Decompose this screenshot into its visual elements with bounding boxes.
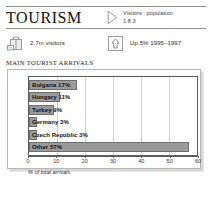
x-tick-label: 0 — [26, 158, 29, 164]
bar-row[interactable]: Germany 3% — [29, 117, 197, 127]
page-title: TOURISM — [6, 10, 82, 26]
chart-title: MAIN TOURIST ARRIVALS — [6, 59, 206, 66]
tourism-infographic-panel: TOURISM Visitors : population 1:8.3 2.7m… — [0, 6, 212, 206]
header-row: TOURISM Visitors : population 1:8.3 — [6, 7, 206, 28]
x-tick-label: 10 — [53, 158, 59, 164]
up-arrow-box-icon — [106, 34, 125, 53]
bar-row[interactable]: Czech Republic 3% — [29, 130, 197, 140]
play-triangle-icon — [107, 10, 118, 25]
plot-area: Bulgaria 17%Hungary 11%Turkey 9%Germany … — [28, 76, 198, 156]
stats-row: 2.7m visitors Up 5% 1995–1997 — [6, 30, 206, 56]
bar-label: Bulgaria 17% — [32, 82, 70, 88]
x-axis-ticks: 0102030405060 — [28, 156, 198, 168]
bar-label: Other 57% — [32, 144, 62, 150]
chart-panel: Bulgaria 17%Hungary 11%Turkey 9%Germany … — [7, 69, 205, 177]
growth-label: Up 5% 1995–1997 — [130, 40, 181, 46]
bar-label: Czech Republic 3% — [32, 132, 88, 138]
chart-card: Bulgaria 17%Hungary 11%Turkey 9%Germany … — [7, 69, 201, 169]
x-tick-label: 30 — [110, 158, 116, 164]
visitors-count-stat: 2.7m visitors — [6, 34, 106, 53]
x-tick-label: 40 — [138, 158, 144, 164]
x-tick-label: 60 — [195, 158, 201, 164]
ratio-label: Visitors : population — [123, 10, 173, 16]
bar-row[interactable]: Bulgaria 17% — [29, 80, 197, 90]
x-tick-label: 50 — [167, 158, 173, 164]
x-tick-label: 20 — [82, 158, 88, 164]
title-cell: TOURISM — [6, 7, 106, 28]
bar-series: Bulgaria 17%Hungary 11%Turkey 9%Germany … — [29, 77, 197, 155]
x-axis-label: % of total arrivals — [28, 169, 70, 175]
suitcase-icon — [6, 34, 25, 53]
bar-label: Hungary 11% — [32, 94, 70, 100]
ratio-value: 1:8.3 — [123, 18, 173, 26]
header-divider-rule — [6, 28, 206, 29]
bar-label: Turkey 9% — [32, 107, 62, 113]
growth-stat: Up 5% 1995–1997 — [106, 34, 206, 53]
bar-label: Germany 3% — [32, 119, 69, 125]
bar-row[interactable]: Other 57% — [29, 142, 197, 152]
visitors-count-label: 2.7m visitors — [30, 40, 65, 46]
visitors-population-stat: Visitors : population 1:8.3 — [106, 7, 206, 28]
visitors-population-text: Visitors : population 1:8.3 — [123, 10, 173, 26]
bar-row[interactable]: Hungary 11% — [29, 92, 197, 102]
bar-row[interactable]: Turkey 9% — [29, 105, 197, 115]
